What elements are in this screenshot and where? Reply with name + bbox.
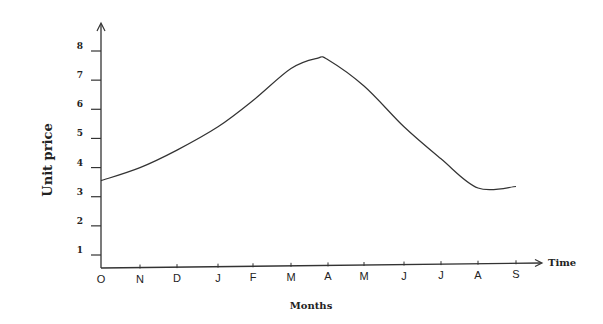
x-tick-label: S <box>512 268 519 280</box>
x-tick-label: D <box>173 272 181 284</box>
x-tick-label: M <box>286 271 295 283</box>
y-tick-label: 7 <box>77 70 83 80</box>
x-tick-label: F <box>250 271 257 283</box>
y-tick-label: 6 <box>77 99 83 109</box>
x-tick-label: J <box>401 270 407 282</box>
price-curve <box>101 57 516 190</box>
y-tick-label: 5 <box>77 128 83 138</box>
x-tick-label: O <box>97 273 106 285</box>
y-tick-label: 2 <box>77 216 83 226</box>
x-tick-label: N <box>136 273 144 285</box>
y-axis: 12345678 <box>77 23 105 268</box>
x-tick-label: A <box>474 269 482 281</box>
y-tick-label: 4 <box>77 158 83 168</box>
x-tick-label: A <box>324 270 332 282</box>
x-axis: ONDJFMAMJJAS <box>97 260 542 286</box>
y-tick-label: 1 <box>77 245 83 255</box>
x-axis-end-label: Time <box>548 257 576 268</box>
y-tick-label: 3 <box>77 187 83 197</box>
x-tick-label: J <box>438 269 444 281</box>
x-tick-label: M <box>359 270 368 282</box>
x-axis-title: Months <box>290 300 333 311</box>
y-axis-title: Unit price <box>40 123 55 196</box>
y-tick-label: 8 <box>77 41 83 51</box>
x-tick-label: J <box>215 272 221 284</box>
line-chart: 12345678 ONDJFMAMJJAS Unit price Months … <box>0 0 603 324</box>
x-axis-line <box>101 263 541 268</box>
